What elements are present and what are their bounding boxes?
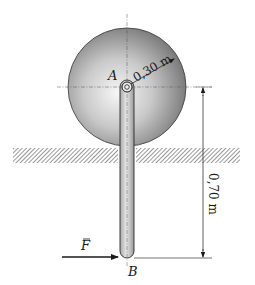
length-dimension-label: 0,70 m <box>206 173 220 216</box>
label-A: A <box>107 68 117 83</box>
pin-A-icon <box>122 82 132 92</box>
label-B: B <box>127 264 138 279</box>
mechanics-diagram: 0,30 m A 0,70 m F B <box>0 0 255 285</box>
label-F: F <box>80 238 91 253</box>
